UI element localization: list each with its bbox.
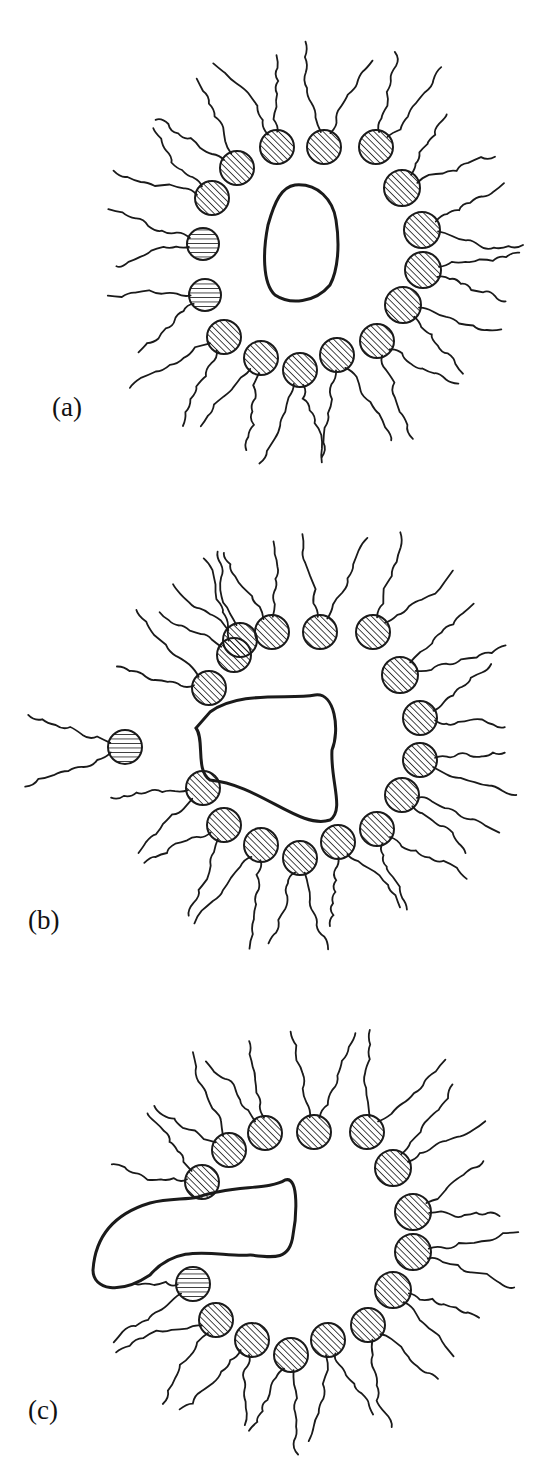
hydrophilic-head bbox=[185, 1165, 219, 1199]
hydrophobic-tail bbox=[322, 370, 336, 457]
hydrophobic-tail bbox=[217, 552, 236, 626]
hydrophilic-head bbox=[351, 1308, 385, 1342]
hydrophobic-tail bbox=[417, 797, 499, 833]
hydrophilic-head bbox=[199, 1303, 233, 1337]
hydrophilic-head bbox=[176, 1267, 210, 1301]
hydrophilic-head bbox=[375, 1150, 411, 1186]
encapsulated-core bbox=[265, 185, 338, 301]
hydrophobic-tail bbox=[410, 604, 474, 663]
hydrophobic-tail bbox=[409, 1293, 479, 1317]
hydrophobic-tail bbox=[401, 1084, 452, 1154]
hydrophilic-head bbox=[395, 1234, 431, 1270]
hydrophobic-tail bbox=[249, 1369, 284, 1431]
hydrophilic-head bbox=[385, 287, 421, 323]
hydrophobic-tail bbox=[417, 157, 495, 183]
hydrophilic-head bbox=[303, 615, 337, 649]
hydrophobic-tail bbox=[330, 857, 339, 926]
hydrophobic-tail bbox=[335, 1353, 373, 1414]
hydrophobic-tail bbox=[438, 231, 523, 249]
hydrophobic-tail bbox=[108, 290, 191, 297]
hydrophilic-head bbox=[283, 353, 317, 387]
hydrophilic-head bbox=[283, 841, 317, 875]
hydrophobic-tail bbox=[156, 119, 224, 160]
hydrophilic-head bbox=[187, 228, 219, 260]
hydrophilic-head bbox=[350, 1115, 384, 1149]
hydrophobic-tail bbox=[364, 1030, 370, 1117]
hydrophilic-head bbox=[385, 778, 419, 812]
hydrophilic-head bbox=[360, 812, 394, 846]
hydrophobic-tail bbox=[108, 209, 190, 238]
hydrophobic-tail bbox=[330, 61, 372, 134]
hydrophilic-head bbox=[217, 638, 251, 672]
hydrophobic-tail bbox=[438, 276, 506, 301]
hydrophilic-head bbox=[375, 1272, 411, 1308]
hydrophobic-tail bbox=[320, 1033, 356, 1118]
hydrophobic-tail bbox=[302, 534, 317, 617]
panel-label: (b) bbox=[28, 905, 59, 936]
hydrophobic-tail bbox=[429, 1211, 499, 1217]
hydrophobic-tail bbox=[111, 790, 188, 799]
hydrophilic-head bbox=[255, 615, 289, 649]
hydrophilic-head bbox=[108, 730, 142, 764]
hydrophobic-tail bbox=[435, 753, 505, 758]
hydrophobic-tail bbox=[112, 1164, 187, 1181]
hydrophobic-tail bbox=[293, 1370, 298, 1454]
hydrophilic-head bbox=[186, 771, 220, 805]
hydrophobic-tail bbox=[274, 55, 279, 132]
hydrophobic-tail bbox=[117, 247, 189, 267]
hydrophobic-tail bbox=[188, 839, 217, 916]
panel-label: (a) bbox=[52, 392, 82, 423]
hydrophobic-tail bbox=[304, 42, 321, 132]
hydrophobic-tail bbox=[439, 253, 519, 267]
hydrophobic-tail bbox=[381, 843, 407, 909]
hydrophobic-tail bbox=[429, 1232, 519, 1249]
hydrophilic-head bbox=[320, 338, 354, 372]
hydrophilic-head bbox=[360, 324, 394, 358]
hydrophobic-tail bbox=[201, 369, 250, 426]
hydrophobic-tail bbox=[224, 553, 264, 619]
hydrophobic-tail bbox=[377, 532, 402, 617]
hydrophilic-head bbox=[356, 615, 390, 649]
hydrophobic-tail bbox=[183, 350, 217, 426]
hydrophilic-head bbox=[235, 1323, 269, 1357]
hydrophobic-tail bbox=[303, 385, 322, 462]
hydrophilic-head bbox=[248, 1116, 282, 1150]
panel-b-drawing bbox=[0, 500, 540, 970]
hydrophobic-tail bbox=[259, 384, 293, 464]
hydrophobic-tail bbox=[291, 1032, 311, 1118]
hydrophobic-tail bbox=[116, 1325, 202, 1352]
hydrophilic-head bbox=[274, 1338, 308, 1372]
hydrophobic-tail bbox=[327, 538, 367, 619]
hydrophilic-head bbox=[260, 130, 294, 164]
hydrophobic-tail bbox=[434, 767, 517, 795]
hydrophilic-head bbox=[220, 151, 254, 185]
hydrophilic-head bbox=[321, 825, 355, 859]
panel-label: (c) bbox=[28, 1395, 58, 1426]
hydrophobic-tail bbox=[436, 183, 504, 221]
hydrophobic-tail bbox=[197, 79, 232, 154]
hydrophobic-tail bbox=[388, 67, 442, 137]
encapsulated-core bbox=[196, 695, 337, 822]
hydrophilic-head bbox=[297, 1115, 331, 1149]
hydrophobic-tail bbox=[435, 719, 505, 728]
hydrophobic-tail bbox=[28, 715, 110, 743]
hydrophobic-tail bbox=[148, 1113, 192, 1170]
hydrophobic-tail bbox=[416, 645, 506, 671]
hydrophilic-head bbox=[395, 1194, 431, 1230]
hydrophilic-head bbox=[244, 828, 278, 862]
hydrophilic-head bbox=[207, 320, 241, 354]
panel-c: (c) bbox=[0, 990, 540, 1483]
hydrophilic-head bbox=[212, 1133, 246, 1167]
hydrophobic-tail bbox=[114, 171, 198, 195]
hydrophobic-tail bbox=[345, 368, 391, 440]
hydrophobic-tail bbox=[144, 833, 210, 863]
hydrophobic-tail bbox=[347, 854, 400, 907]
hydrophobic-tail bbox=[269, 873, 296, 944]
hydrophilic-head bbox=[403, 701, 437, 735]
hydrophobic-tail bbox=[153, 128, 202, 186]
hydrophobic-tail bbox=[381, 355, 412, 439]
hydrophobic-tail bbox=[180, 1350, 241, 1409]
hydrophobic-tail bbox=[385, 571, 453, 623]
panel-c-drawing bbox=[0, 990, 540, 1483]
hydrophobic-tail bbox=[139, 304, 194, 352]
